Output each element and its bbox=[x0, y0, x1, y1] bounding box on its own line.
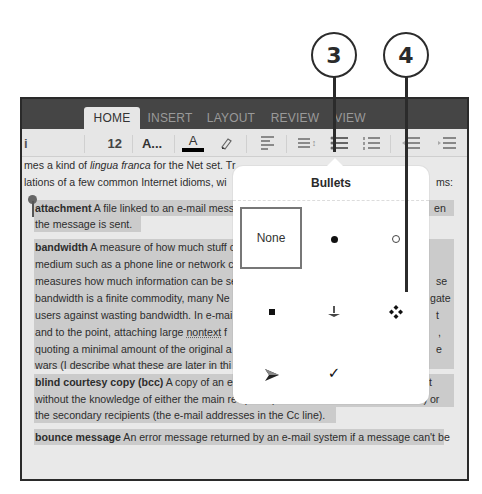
divider bbox=[84, 135, 85, 153]
font-color-button[interactable]: A bbox=[176, 129, 210, 157]
bullet-style-arrowhead-down-option[interactable] bbox=[305, 283, 363, 341]
text-run: mes a kind of bbox=[24, 159, 90, 171]
entry-bandwidth-line-1: bandwidth A measure of how much stuff c bbox=[35, 239, 235, 255]
four-diamond-icon bbox=[389, 305, 403, 319]
bullet-style-checkmark-option[interactable]: ✓ bbox=[305, 344, 363, 402]
font-name-field[interactable]: i bbox=[22, 129, 82, 157]
bullets-popover: Bullets None ✓ bbox=[233, 166, 429, 404]
divider bbox=[132, 135, 133, 153]
ribbon-tab-bar: HOME INSERT LAYOUT REVIEW VIEW bbox=[22, 99, 467, 129]
bullet-style-filled-circle-option[interactable] bbox=[305, 210, 363, 268]
text-run: A file linked to an e-mail mess bbox=[92, 202, 235, 214]
callout-4-line bbox=[405, 77, 408, 292]
bullet-style-diamond-option[interactable] bbox=[367, 283, 425, 341]
arrowhead-right-icon bbox=[265, 369, 279, 381]
entry-bandwidth-right: gate bbox=[430, 290, 451, 306]
entry-bandwidth-line-5: users against wasting bandwidth. In e-ma… bbox=[35, 307, 232, 323]
callout-label: 4 bbox=[398, 43, 413, 68]
line-spacing-icon[interactable]: ↕ bbox=[290, 129, 324, 157]
divider bbox=[174, 135, 175, 153]
selection-caret bbox=[32, 201, 34, 217]
divider bbox=[233, 200, 429, 201]
entry-attachment-line-2: the message is sent. bbox=[35, 216, 132, 232]
bullet-style-none-option[interactable]: None bbox=[240, 207, 302, 269]
text-run: and to the point, attaching large bbox=[35, 326, 186, 338]
text-run: for the Net set. Tr bbox=[151, 159, 236, 171]
filled-square-icon bbox=[269, 309, 275, 315]
entry-bcc-line-3: the secondary recipients (the e-mail add… bbox=[35, 407, 325, 423]
bullet-style-arrowhead-right-option[interactable] bbox=[243, 346, 301, 404]
entry-bandwidth-line-3: measures how much information can be se bbox=[35, 273, 237, 289]
highlighter-icon[interactable] bbox=[210, 129, 242, 157]
font-color-letter: A bbox=[189, 135, 198, 147]
font-size-field[interactable]: 12 bbox=[86, 129, 132, 157]
option-label: None bbox=[257, 231, 286, 245]
text-run: f bbox=[221, 326, 227, 338]
callout-3: 3 bbox=[311, 32, 357, 78]
bulleted-list-icon[interactable] bbox=[324, 129, 354, 157]
text-run: A measure of how much stuff c bbox=[88, 241, 235, 253]
decrease-indent-icon[interactable] bbox=[394, 129, 428, 157]
divider bbox=[390, 135, 391, 153]
numbered-list-icon[interactable] bbox=[356, 129, 386, 157]
divider bbox=[246, 135, 247, 153]
entry-term: bounce message bbox=[35, 431, 121, 443]
popover-arrow bbox=[326, 158, 344, 167]
entry-bandwidth-right: e bbox=[436, 341, 442, 357]
popover-title: Bullets bbox=[233, 176, 429, 190]
formatting-toolbar: i 12 A... A ↕ bbox=[22, 129, 467, 157]
tab-home[interactable]: HOME bbox=[84, 107, 140, 129]
tab-layout[interactable]: LAYOUT bbox=[203, 107, 259, 129]
entry-bounce-line-1: bounce message An error message returned… bbox=[35, 429, 450, 445]
intro-line-1: mes a kind of lingua franca for the Net … bbox=[24, 157, 235, 173]
tab-insert[interactable]: INSERT bbox=[146, 107, 194, 129]
font-color-swatch bbox=[182, 148, 204, 152]
checkmark-icon: ✓ bbox=[328, 364, 341, 382]
font-more-button[interactable]: A... bbox=[134, 129, 170, 157]
intro-line-2: lations of a few common Internet idioms,… bbox=[24, 174, 227, 190]
callout-label: 3 bbox=[326, 43, 341, 68]
entry-bandwidth-line-4: bandwidth is a finite commodity, many Ne bbox=[35, 290, 230, 306]
entry-attachment-line-1: attachment A file linked to an e-mail me… bbox=[35, 200, 234, 216]
tab-review[interactable]: REVIEW bbox=[267, 107, 323, 129]
entry-bandwidth-right: se bbox=[436, 273, 447, 289]
entry-term: attachment bbox=[35, 202, 92, 214]
text-run: An error message returned by an e-mail s… bbox=[121, 431, 450, 443]
entry-bandwidth-line-6: and to the point, attaching large nontex… bbox=[35, 324, 227, 340]
entry-bandwidth-line-2: medium such as a phone line or network c bbox=[35, 256, 233, 272]
intro-line-2-right: ms: bbox=[436, 174, 453, 190]
entry-bandwidth-right: t bbox=[436, 307, 439, 323]
filled-circle-icon bbox=[331, 236, 338, 243]
callout-3-line bbox=[333, 77, 336, 152]
align-left-icon[interactable] bbox=[252, 129, 282, 157]
increase-indent-icon[interactable] bbox=[430, 129, 464, 157]
divider bbox=[286, 135, 287, 153]
entry-term: blind courtesy copy (bcc) bbox=[35, 376, 163, 388]
spellcheck-word[interactable]: nontext bbox=[186, 326, 221, 338]
entry-bandwidth-line-8: wars (I describe what these are later in… bbox=[35, 357, 231, 373]
entry-attachment-right: en bbox=[434, 200, 446, 216]
entry-bandwidth-line-7: quoting a minimal amount of the original… bbox=[35, 341, 232, 357]
arrowhead-down-icon bbox=[327, 306, 341, 318]
entry-bandwidth-right: , bbox=[438, 324, 441, 340]
bullet-style-filled-square-option[interactable] bbox=[243, 283, 301, 341]
bullet-style-hollow-circle-option[interactable] bbox=[367, 210, 425, 268]
hollow-circle-icon bbox=[392, 235, 400, 243]
callout-4: 4 bbox=[383, 32, 429, 78]
italic-text: lingua franca bbox=[90, 159, 151, 171]
entry-term: bandwidth bbox=[35, 241, 88, 253]
